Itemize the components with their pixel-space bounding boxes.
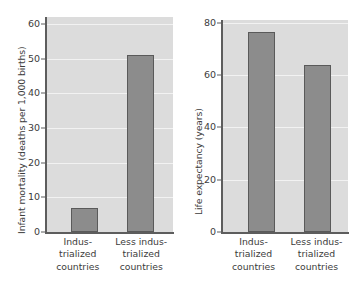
plot-area-life-expectancy — [222, 20, 348, 232]
gridline — [46, 24, 173, 25]
y-tick-labels-infant-mortality: 0102030405060 — [20, 0, 40, 290]
y-tick-label-80: 80 — [204, 18, 216, 28]
chart-panel-infant-mortality: Infant mortality (deaths per 1,000 birth… — [0, 0, 178, 290]
y-tick-label-20: 20 — [28, 158, 40, 168]
x-category-label-line: trialized — [110, 248, 174, 260]
y-tick-label-30: 30 — [28, 123, 40, 133]
x-category-label-line: trialized — [285, 248, 348, 260]
y-tick-label-50: 50 — [28, 54, 40, 64]
x-category-label-0: Indus-trializedcountries — [222, 236, 285, 273]
chart-panel-life-expectancy: Life expectancy (years) 020406080 Indus-… — [178, 0, 354, 290]
x-category-label-0: Indus-trializedcountries — [46, 236, 110, 273]
x-category-labels-infant-mortality: Indus-trializedcountriesLess indus-trial… — [46, 236, 173, 273]
y-tick-label-0: 0 — [210, 227, 216, 237]
y-tick-label-40: 40 — [204, 123, 216, 133]
figure-two-bar-charts: Infant mortality (deaths per 1,000 birth… — [0, 0, 354, 290]
x-category-label-line: countries — [285, 261, 348, 273]
bar-life-expectancy-0 — [248, 32, 275, 232]
bar-life-expectancy-1 — [304, 65, 331, 233]
y-tick-label-20: 20 — [204, 175, 216, 185]
y-tick-label-10: 10 — [28, 193, 40, 203]
x-category-label-1: Less indus-trializedcountries — [285, 236, 348, 273]
y-tick-label-60: 60 — [204, 70, 216, 80]
x-axis-line-life-expectancy — [221, 232, 349, 234]
x-category-label-line: Less indus- — [110, 236, 174, 248]
y-tick-label-40: 40 — [28, 89, 40, 99]
bar-infant-mortality-1 — [127, 55, 154, 232]
y-tick-label-0: 0 — [34, 227, 40, 237]
x-category-label-line: Indus- — [46, 236, 110, 248]
x-category-label-line: trialized — [222, 248, 285, 260]
bar-infant-mortality-0 — [71, 208, 98, 232]
x-category-label-line: countries — [110, 261, 174, 273]
x-category-label-1: Less indus-trializedcountries — [110, 236, 174, 273]
plot-area-infant-mortality — [46, 17, 173, 232]
y-tick-label-60: 60 — [28, 19, 40, 29]
x-axis-line-infant-mortality — [45, 232, 174, 234]
y-axis-line-infant-mortality — [45, 17, 47, 233]
gridline — [222, 23, 348, 24]
x-category-label-line: countries — [222, 261, 285, 273]
x-category-label-line: countries — [46, 261, 110, 273]
y-tick-labels-life-expectancy: 020406080 — [196, 0, 216, 290]
y-axis-line-life-expectancy — [221, 20, 223, 233]
x-category-label-line: trialized — [46, 248, 110, 260]
x-category-labels-life-expectancy: Indus-trializedcountriesLess indus-trial… — [222, 236, 348, 273]
x-category-label-line: Indus- — [222, 236, 285, 248]
x-category-label-line: Less indus- — [285, 236, 348, 248]
